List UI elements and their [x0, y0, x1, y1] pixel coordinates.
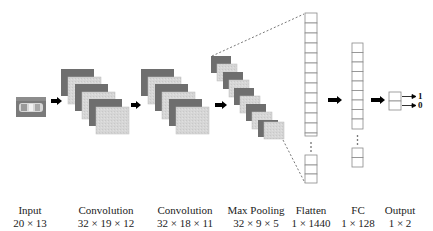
- output-vector: [389, 92, 401, 110]
- cnn-diagram: 1 0 Input 20 × 13 Convolution 32 × 19 × …: [0, 0, 433, 231]
- conv1-feature-maps: [61, 69, 129, 134]
- arrow-flatten-fc: [328, 96, 342, 104]
- arrow-conv1-conv2: [131, 101, 141, 109]
- arrow-conv2-maxpool: [215, 101, 227, 109]
- layer-dims: 1 × 128: [341, 217, 375, 230]
- layer-name: Convolution: [157, 204, 212, 216]
- conv2-feature-maps: [141, 69, 209, 134]
- maxpool-feature-maps: [211, 56, 284, 139]
- flatten-ellipsis: [310, 142, 312, 152]
- arrow-input-conv1: [51, 97, 62, 105]
- layer-name: Output: [385, 204, 416, 216]
- layer-dims: 32 × 19 × 12: [78, 217, 134, 230]
- layer-dims: 32 × 9 × 5: [227, 217, 284, 230]
- layer-name: Flatten: [296, 204, 327, 216]
- flatten-vector: [305, 13, 317, 183]
- output-arrows: [402, 95, 416, 108]
- fc-vector: [352, 43, 363, 167]
- layer-name: FC: [351, 204, 364, 216]
- layer-dims: 1 × 1440: [291, 217, 330, 230]
- label-maxpool: Max Pooling 32 × 9 × 5: [227, 204, 284, 230]
- label-flatten: Flatten 1 × 1440: [291, 204, 330, 230]
- arrow-fc-output: [371, 96, 385, 104]
- layer-dims: 1 × 2: [385, 217, 416, 230]
- input-image: [16, 97, 46, 117]
- label-output: Output 1 × 2: [385, 204, 416, 230]
- label-conv2: Convolution 32 × 18 × 11: [157, 204, 213, 230]
- output-value-0: 0: [418, 101, 423, 110]
- fc-ellipsis: [357, 135, 359, 145]
- layer-dims: 32 × 18 × 11: [157, 217, 213, 230]
- layer-name: Max Pooling: [227, 204, 284, 216]
- label-fc: FC 1 × 128: [341, 204, 375, 230]
- layer-name: Convolution: [78, 204, 133, 216]
- label-input: Input 20 × 13: [13, 204, 47, 230]
- layer-dims: 20 × 13: [13, 217, 47, 230]
- label-conv1: Convolution 32 × 19 × 12: [78, 204, 134, 230]
- diagram-canvas: [0, 0, 433, 231]
- layer-name: Input: [18, 204, 41, 216]
